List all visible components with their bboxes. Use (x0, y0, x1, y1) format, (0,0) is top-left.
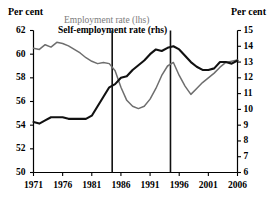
left-axis-tick-label: 50 (10, 167, 26, 177)
right-axis-tick-label: 15 (244, 25, 260, 35)
left-axis-tick-label: 58 (10, 72, 26, 82)
left-axis-tick-label: 56 (10, 96, 26, 106)
x-axis-tick-label: 2006 (225, 180, 251, 190)
x-axis-tick-label: 1991 (137, 180, 163, 190)
x-axis-tick-label: 1971 (21, 180, 47, 190)
employment-rate-line (34, 42, 238, 108)
x-axis-tick-label: 1981 (79, 180, 105, 190)
x-axis-tick-label: 1996 (166, 180, 192, 190)
left-axis-tick-label: 52 (10, 143, 26, 153)
x-axis-tick-label: 2001 (195, 180, 221, 190)
right-axis-tick-label: 10 (244, 104, 260, 114)
left-axis-tick-label: 60 (10, 49, 26, 59)
chart-container: Per cent Per cent Employment rate (lhs) … (0, 0, 272, 202)
x-axis-tick-label: 1986 (108, 180, 134, 190)
plot-area (0, 0, 272, 202)
right-axis-tick-label: 14 (244, 41, 260, 51)
right-axis-tick-label: 11 (244, 88, 260, 98)
right-axis-tick-label: 12 (244, 72, 260, 82)
x-axis-tick-label: 1976 (50, 180, 76, 190)
self-employment-rate-line (34, 46, 238, 123)
right-axis-tick-label: 9 (244, 120, 260, 130)
left-axis-tick-label: 54 (10, 120, 26, 130)
axes-group (30, 31, 241, 177)
right-axis-tick-label: 13 (244, 57, 260, 67)
right-axis-tick-label: 8 (244, 135, 260, 145)
right-axis-tick-label: 6 (244, 167, 260, 177)
left-axis-tick-label: 62 (10, 25, 26, 35)
series-group (34, 42, 238, 123)
right-axis-tick-label: 7 (244, 151, 260, 161)
